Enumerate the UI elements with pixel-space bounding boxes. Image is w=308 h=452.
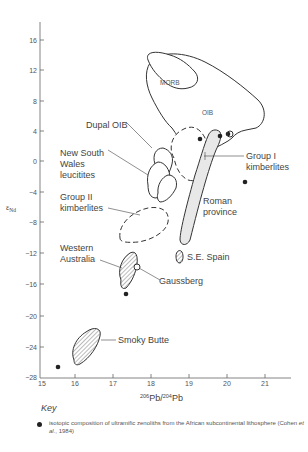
key-entry: isotopic composition of ultramific zenol… [37,420,307,435]
x-tick-label: 16 [71,380,79,387]
western-australia-field [120,252,138,288]
smoky-butte-field [73,329,101,365]
se-spain-field [176,251,183,263]
western-australia-label-line1: Western [60,243,93,253]
roman-label-line1: Roman [203,196,232,206]
data-point [218,134,223,139]
y-axis-label: εNd [6,203,16,213]
isotope-diagram: 16 12 8 4 0 −4 −8 −12 −16 −20 −24 −28 εN… [0,0,308,452]
nsw-label-line1: New South [60,148,104,158]
nsw-label-line2: Wales [60,159,85,169]
y-tick-label: −20 [25,313,37,320]
y-tick-label: −4 [29,189,37,196]
solid-dot-icon [37,422,42,427]
dupal-oib-label: Dupal OIB [86,120,128,130]
x-ticks [75,374,265,378]
group-ii-label-line2: kimberlites [60,203,104,213]
y-tick-label: −28 [25,374,37,381]
smoky-butte-label: Smoky Butte [118,335,169,345]
y-axis: 16 12 8 4 0 −4 −8 −12 −16 −20 −24 −28 εN… [6,22,44,381]
morb-label: MORB [160,79,180,86]
y-tick-label: 4 [33,128,37,135]
gaussberg-label: Gaussberg [159,276,203,286]
data-point [56,365,61,370]
y-tick-label: 16 [29,37,37,44]
group-ii-kimberlite-field [120,208,168,243]
group-i-label-line1: Group I [246,151,276,161]
x-tick-label: 17 [109,380,117,387]
x-axis-label: 206Pb/204Pb [140,393,183,403]
y-tick-label: −24 [25,344,37,351]
x-tick-label: 15 [38,380,46,387]
data-point [124,292,129,297]
y-ticks [40,40,44,347]
roman-label-line2: province [203,207,237,217]
oib-label: OIB [202,109,213,116]
group-ii-label-line1: Group II [60,192,93,202]
y-tick-label: −8 [29,219,37,226]
y-tick-label: −12 [25,250,37,257]
x-axis: 15 16 17 18 19 20 21 206Pb/204Pb [38,374,291,403]
gaussberg-point [134,264,140,270]
y-tick-label: −16 [25,281,37,288]
x-tick-label: 18 [147,380,155,387]
x-tick-label: 20 [223,380,231,387]
y-tick-label: 0 [33,158,37,165]
se-spain-label: S.E. Spain [187,252,230,262]
x-tick-label: 21 [261,380,269,387]
data-point [198,137,203,142]
key-title: Key [41,403,57,413]
western-australia-label-line2: Australia [60,254,95,264]
key-description: isotopic composition of ultramific zenol… [49,420,307,435]
nsw-label-line3: leucitites [60,170,96,180]
y-tick-label: 12 [29,67,37,74]
group-i-label-line2: kimberlites [246,162,290,172]
data-point [243,180,248,185]
x-tick-label: 19 [185,380,193,387]
y-tick-label: 8 [33,98,37,105]
